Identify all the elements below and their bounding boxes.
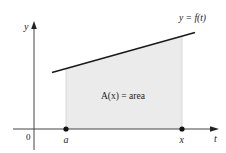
point-a [63, 126, 68, 131]
origin-label: 0 [26, 132, 31, 142]
t-axis-arrow-icon [210, 126, 219, 132]
t-axis-label: t [214, 133, 217, 144]
y-axis-label: y [23, 21, 29, 32]
area-region [66, 36, 182, 129]
point-x [179, 126, 184, 131]
point-a-label: a [64, 134, 69, 145]
curve-label: y = f(t) [178, 13, 206, 24]
area-function-diagram: y 0 a x t y = f(t) A(x) = area [0, 0, 226, 153]
region-label: A(x) = area [101, 91, 146, 102]
point-x-label: x [179, 134, 185, 145]
y-axis-arrow-icon [31, 21, 37, 29]
